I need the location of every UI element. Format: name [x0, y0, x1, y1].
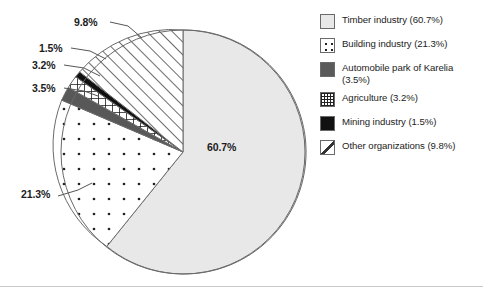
legend-swatch-diagonal-hatch-icon	[320, 140, 335, 155]
pie-label-automobile-park: 3.5%	[32, 82, 56, 94]
pie-label-agriculture: 3.2%	[32, 59, 56, 71]
legend-item-building-industry[interactable]: Building industry (21.3%)	[320, 37, 480, 55]
legend-item-agriculture[interactable]: Agriculture (3.2%)	[320, 91, 480, 109]
legend-label-timber-industry: Timber industry (60.7%)	[342, 13, 443, 26]
legend-label-mining-industry: Mining industry (1.5%)	[342, 115, 436, 128]
legend-swatch-solid-black-icon	[320, 116, 335, 131]
pie-label-mining-industry: 1.5%	[39, 42, 63, 54]
chart-legend: Timber industry (60.7%) Building industr…	[320, 13, 480, 163]
legend-swatch-solid-dark-gray-icon	[320, 62, 335, 77]
legend-label-other-organizations: Other organizations (9.8%)	[342, 139, 455, 152]
legend-item-other-organizations[interactable]: Other organizations (9.8%)	[320, 139, 480, 157]
chart-plot-area: 60.7% 21.3% 3.5% 3.2% 1.5% 9.8%	[0, 0, 316, 293]
legend-item-automobile-park-of-karelia[interactable]: Automobile park of Karelia (3.5%)	[320, 61, 480, 85]
legend-swatch-dots-icon	[320, 38, 335, 53]
legend-item-mining-industry[interactable]: Mining industry (1.5%)	[320, 115, 480, 133]
legend-label-agriculture: Agriculture (3.2%)	[342, 91, 418, 104]
legend-label-building-industry: Building industry (21.3%)	[342, 37, 447, 50]
legend-item-timber-industry[interactable]: Timber industry (60.7%)	[320, 13, 480, 31]
legend-label-automobile-park-of-karelia: Automobile park of Karelia (3.5%)	[342, 61, 480, 85]
legend-swatch-grid-icon	[320, 92, 335, 107]
legend-swatch-solid-light-gray-icon	[320, 14, 335, 29]
pie-label-timber-industry: 60.7%	[207, 141, 236, 153]
pie-chart-figure: 60.7% 21.3% 3.5% 3.2% 1.5% 9.8% Timber i…	[0, 0, 483, 293]
pie-label-building-industry: 21.3%	[21, 188, 50, 200]
pie-label-other-organizations: 9.8%	[74, 16, 98, 28]
bottom-divider	[0, 286, 483, 287]
